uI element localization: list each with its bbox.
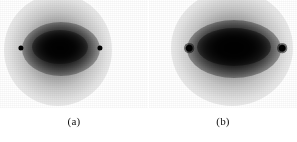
figure-panel-b: (b) [149, 0, 297, 142]
density-plot-b [149, 0, 297, 108]
electron-cloud-inner-core-b [197, 28, 271, 66]
figure-panel-a: (a) [0, 0, 148, 142]
nucleus-left-b [184, 43, 194, 53]
electron-cloud-inner-core-a [32, 30, 88, 64]
nucleus-right-b [277, 43, 287, 53]
panel-label-a: (a) [0, 115, 148, 127]
density-plot-a [0, 0, 148, 108]
figure-root: (a) (b) [0, 0, 297, 142]
panel-label-b: (b) [149, 115, 297, 127]
